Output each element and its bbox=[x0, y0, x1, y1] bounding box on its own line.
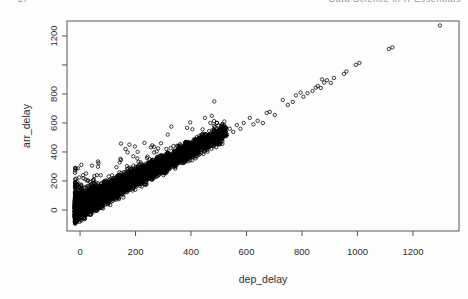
slide: 27 Data Science in R Essentials 02004006… bbox=[0, 0, 468, 299]
svg-text:400: 400 bbox=[183, 246, 199, 257]
svg-text:600: 600 bbox=[239, 246, 255, 257]
svg-text:0: 0 bbox=[48, 207, 59, 212]
y-axis-ticks: 02004006008001200 bbox=[48, 25, 67, 212]
svg-text:600: 600 bbox=[48, 115, 59, 131]
svg-text:1000: 1000 bbox=[347, 246, 368, 257]
header-right-fragment: Data Science in R Essentials bbox=[271, 0, 461, 5]
svg-text:800: 800 bbox=[48, 86, 59, 102]
header-left-fragment: 27 bbox=[18, 0, 78, 5]
svg-text:200: 200 bbox=[48, 173, 59, 189]
svg-text:1200: 1200 bbox=[48, 25, 59, 46]
svg-text:400: 400 bbox=[48, 144, 59, 160]
x-axis-ticks: 020040060080010001200 bbox=[77, 231, 423, 257]
outlier-points bbox=[198, 24, 442, 150]
svg-text:200: 200 bbox=[128, 246, 144, 257]
svg-text:800: 800 bbox=[294, 246, 310, 257]
scatter-plot: 020040060080010001200 02004006008001200 … bbox=[0, 0, 468, 299]
dense-point-cloud bbox=[73, 100, 228, 226]
svg-text:0: 0 bbox=[77, 246, 82, 257]
svg-text:1200: 1200 bbox=[402, 246, 423, 257]
x-axis-title: dep_delay bbox=[239, 273, 288, 285]
header-right-text: Data Science in R Essentials bbox=[329, 0, 461, 5]
y-axis-title: arr_delay bbox=[20, 103, 32, 148]
plot-frame bbox=[67, 21, 459, 231]
header-left-text: 27 bbox=[18, 0, 28, 5]
